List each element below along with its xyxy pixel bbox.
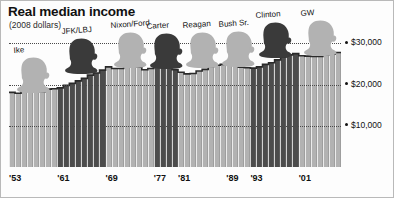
x-tick-1977: '77 [154,173,166,183]
president-label: Nixon/Ford [110,19,150,31]
x-tick-1981: '81 [178,173,190,183]
y-tick-label: $20,000 [351,79,382,89]
y-tick-10000: $10,000 [345,120,382,130]
president-label: Bush Sr. [219,18,250,29]
chart-subtitle: (2008 dollars) [9,20,61,30]
president-head-icon [61,36,101,76]
x-tick-1993: '93 [250,173,262,183]
president-gw: GW [300,18,340,58]
president-head-icon [146,31,186,71]
y-tick-dot-icon [345,123,348,126]
x-axis: '53'61'69'77'81'89'93'01 [1,169,394,197]
president-bush-sr: Bush Sr. [218,29,258,69]
y-tick-dot-icon [345,41,348,44]
y-tick-label: $10,000 [351,120,382,130]
president-reagan: Reagan [182,30,222,70]
x-tick-1989: '89 [226,173,238,183]
president-label: Clinton [255,9,280,20]
y-tick-20000: $20,000 [345,79,382,89]
president-head-icon [218,29,258,69]
bar-2007 [335,52,341,167]
president-jfk-lbj: JFK/LBJ [61,36,101,76]
president-head-icon [110,30,150,70]
president-head-icon [255,20,295,60]
president-carter: Carter [146,31,186,71]
page-title: Real median income [8,4,135,19]
president-head-icon [13,55,53,95]
y-tick-dot-icon [345,82,348,85]
president-head-icon [182,30,222,70]
chart-frame: Real median income (2008 dollars) $30,00… [0,0,394,198]
president-ike: Ike [13,55,53,95]
president-label: Carter [146,21,169,32]
president-head-icon [300,18,340,58]
president-label: Ike [14,45,25,55]
president-label: GW [300,8,314,18]
president-clinton: Clinton [255,20,295,60]
x-tick-1969: '69 [106,173,118,183]
x-tick-1961: '61 [57,173,69,183]
president-label: Reagan [183,19,212,30]
y-tick-label: $30,000 [351,37,382,47]
y-tick-30000: $30,000 [345,37,382,47]
x-tick-2001: '01 [299,173,311,183]
x-tick-1953: '53 [9,173,21,183]
president-nixon-ford: Nixon/Ford [110,30,150,70]
